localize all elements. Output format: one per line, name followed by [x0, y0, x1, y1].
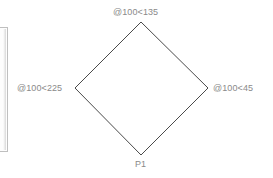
- vertex-label-top: @100<135: [113, 7, 158, 18]
- vertex-label-bottom: P1: [135, 159, 146, 170]
- diamond-polygon[interactable]: [75, 22, 208, 155]
- drawing-canvas: @100<135 @100<225 @100<45 P1: [0, 0, 273, 178]
- vertex-label-left: @100<225: [17, 83, 62, 94]
- vertex-label-right: @100<45: [213, 83, 253, 94]
